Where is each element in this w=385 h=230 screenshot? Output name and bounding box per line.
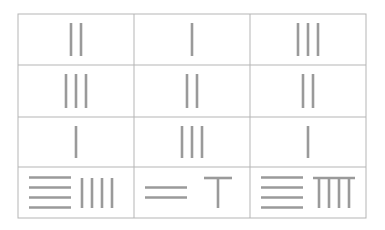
counting-rod-grid [0,0,385,230]
